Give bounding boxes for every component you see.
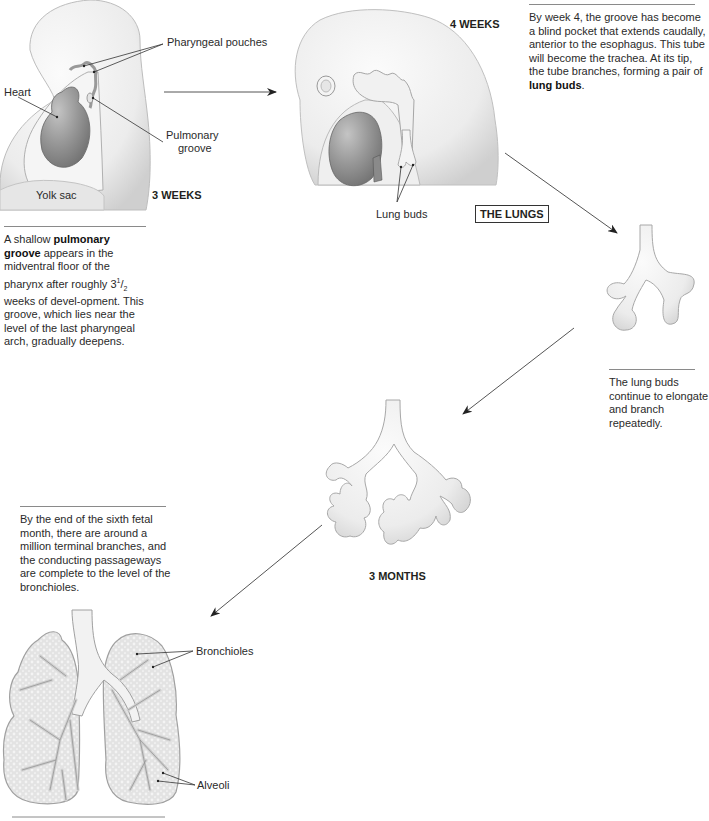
arrow-3mo-to-6mo: [211, 525, 322, 616]
caption-4-weeks: By week 4, the groove has become a blind…: [529, 11, 707, 92]
label-bronchioles: Bronchioles: [196, 645, 253, 658]
lungs-6-months-illustration: [3, 610, 195, 804]
caption-3-weeks: A shallow pulmonary groove appears in th…: [4, 233, 146, 349]
stage-label-3-weeks: 3 WEEKS: [152, 189, 202, 201]
label-alveoli: Alveoli: [197, 779, 229, 792]
label-pulmonary-groove-line2: groove: [178, 142, 212, 155]
stage-label-4-weeks: 4 WEEKS: [450, 18, 500, 30]
caption-branching: The lung buds continue to elongate and b…: [609, 376, 709, 430]
label-pharyngeal-pouches: Pharyngeal pouches: [167, 36, 267, 49]
term-lung-buds: lung buds: [529, 79, 582, 91]
label-lung-buds: Lung buds: [376, 208, 427, 221]
diagram-canvas: [0, 0, 709, 821]
embryo-3-weeks-illustration: [0, 0, 163, 210]
lung-buds-branching-illustration: [607, 225, 694, 330]
lungs-3-months-illustration: [326, 400, 470, 544]
caption-rule: [4, 226, 146, 227]
embryo-4-weeks-illustration: [295, 10, 498, 202]
caption-rule: [529, 4, 695, 5]
caption-6-months: By the end of the sixth fetal month, the…: [20, 513, 180, 594]
label-pulmonary-groove-line1: Pulmonary: [166, 129, 219, 142]
label-heart: Heart: [4, 86, 31, 99]
label-yolk-sac: Yolk sac: [36, 189, 77, 202]
caption-rule: [20, 506, 166, 507]
caption-rule: [609, 369, 695, 370]
arrow-branching-to-3mo: [463, 328, 574, 414]
stage-label-3-months: 3 MONTHS: [369, 570, 426, 582]
diagram-title: THE LUNGS: [475, 205, 549, 223]
